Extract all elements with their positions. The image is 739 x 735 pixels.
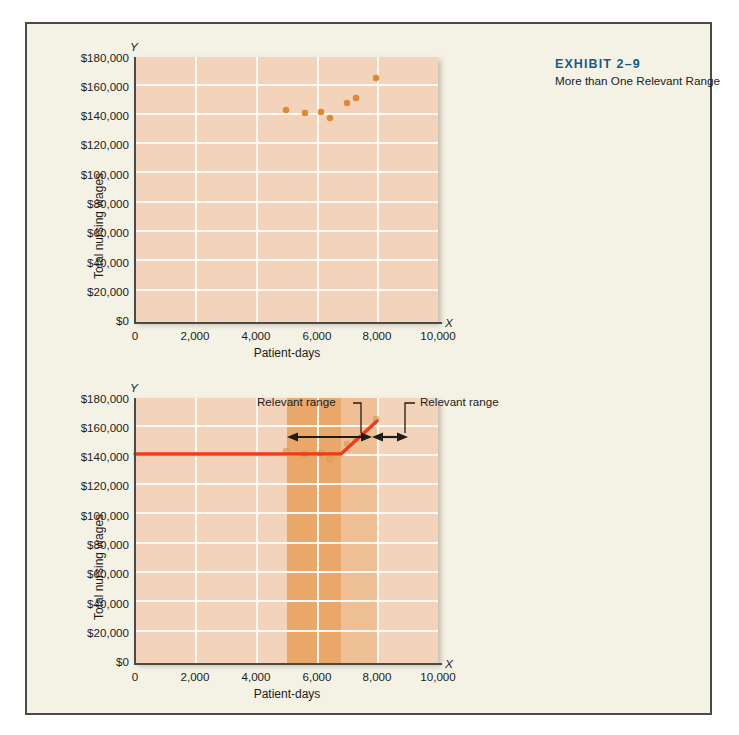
line-ytick: $0 [47, 655, 129, 668]
data-point [373, 75, 379, 81]
data-point [344, 100, 350, 106]
line-chart: Total nursing wages Y X [27, 365, 497, 715]
line-ytick: $120,000 [47, 479, 129, 492]
scatter-ytick: $0 [47, 314, 129, 327]
gridline-x-4000 [256, 57, 258, 322]
line-ytick: $40,000 [47, 597, 129, 610]
line-xtick: 10,000 [408, 670, 468, 683]
exhibit-caption: More than One Relevant Range [555, 74, 725, 89]
line-x-axis-cap: X [445, 657, 453, 671]
line-y-axis [134, 398, 136, 664]
gridline-120000 [135, 142, 438, 144]
line-xtick: 4,000 [226, 670, 286, 683]
scatter-xtick: 0 [105, 329, 165, 342]
scatter-ytick: $100,000 [47, 168, 129, 181]
scatter-xtick: 4,000 [226, 329, 286, 342]
scatter-ytick: $180,000 [47, 51, 129, 64]
line-xtick: 8,000 [347, 670, 407, 683]
line-xtick: 0 [105, 670, 165, 683]
scatter-x-axis-cap: X [445, 316, 453, 330]
scatter-xtick: 8,000 [347, 329, 407, 342]
data-point [283, 107, 289, 113]
scatter-y-axis [134, 57, 136, 323]
gridline-20000 [135, 289, 438, 291]
scatter-ytick: $40,000 [47, 256, 129, 269]
gridline-60000 [135, 230, 438, 232]
exhibit-frame: EXHIBIT 2–9 More than One Relevant Range… [25, 22, 712, 715]
scatter-ytick: $20,000 [47, 285, 129, 298]
line-ytick: $100,000 [47, 509, 129, 522]
scatter-xtick: 6,000 [287, 329, 347, 342]
scatter-chart: Total nursing wages Y X $180,0 [27, 24, 497, 374]
gridline-x-6000 [317, 57, 319, 322]
gridline-x-2000 [195, 57, 197, 322]
gridline-160000 [135, 84, 438, 86]
scatter-xtick: 2,000 [165, 329, 225, 342]
scatter-ytick: $60,000 [47, 226, 129, 239]
gridline-40000 [135, 259, 438, 261]
scatter-xtick: 10,000 [408, 329, 468, 342]
scatter-x-axis-title: Patient-days [227, 346, 347, 360]
exhibit-header: EXHIBIT 2–9 More than One Relevant Range [555, 57, 725, 89]
line-x-axis [134, 663, 442, 665]
scatter-ytick: $80,000 [47, 197, 129, 210]
line-ytick: $60,000 [47, 567, 129, 580]
gridline-x-8000 [377, 57, 379, 322]
data-point [327, 115, 333, 121]
line-ytick: $140,000 [47, 450, 129, 463]
line-ytick: $20,000 [47, 626, 129, 639]
scatter-y-axis-cap: Y [130, 40, 138, 54]
line-ytick: $80,000 [47, 538, 129, 551]
gridline-80000 [135, 201, 438, 203]
scatter-ytick: $120,000 [47, 138, 129, 151]
scatter-plot-area [135, 57, 438, 322]
data-point [302, 110, 308, 116]
line-x-axis-title: Patient-days [227, 687, 347, 701]
scatter-ytick: $140,000 [47, 109, 129, 122]
gridline-140000 [135, 113, 438, 115]
data-point [353, 95, 359, 101]
line-xtick: 2,000 [165, 670, 225, 683]
scatter-x-axis [134, 322, 442, 324]
line-ytick: $180,000 [47, 392, 129, 405]
exhibit-number: EXHIBIT 2–9 [555, 57, 725, 71]
data-point [318, 109, 324, 115]
line-ytick: $160,000 [47, 421, 129, 434]
line-xtick: 6,000 [287, 670, 347, 683]
scatter-ytick: $160,000 [47, 80, 129, 93]
gridline-100000 [135, 171, 438, 173]
